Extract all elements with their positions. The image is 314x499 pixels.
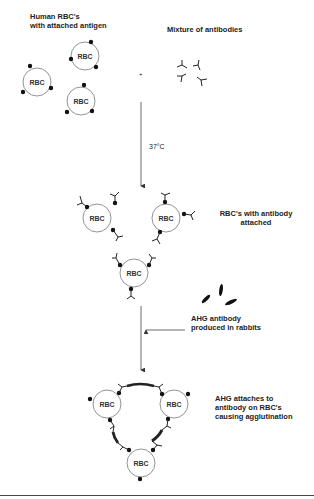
antibody-icon xyxy=(177,60,207,86)
rbc-label: RBC xyxy=(77,53,92,60)
rbc-labels: RBC RBC RBC RBC RBC RBC RBC RBC RBC xyxy=(29,53,181,467)
rbc-label: RBC xyxy=(133,460,148,467)
rbc-label: RBC xyxy=(89,215,104,222)
rbc-label: RBC xyxy=(29,79,44,86)
rbc-label: RBC xyxy=(73,98,88,105)
ahg-antibody-icon xyxy=(201,284,238,307)
rbc-label: RBC xyxy=(166,401,181,408)
rbc-label: RBC xyxy=(99,401,114,408)
bottom-rule xyxy=(0,495,314,496)
rbc-label: RBC xyxy=(126,270,141,277)
agglutination-diagram: RBC RBC RBC RBC RBC RBC RBC RBC RBC xyxy=(0,0,314,499)
rbc-label: RBC xyxy=(158,215,173,222)
